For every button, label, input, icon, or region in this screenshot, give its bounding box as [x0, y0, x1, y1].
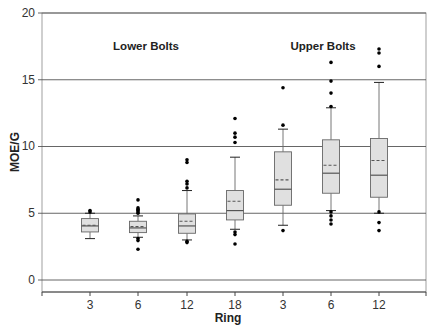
iqr-box [371, 138, 388, 197]
outlier-point [329, 61, 333, 65]
outlier-point [377, 65, 381, 69]
x-tick-label: 12 [180, 298, 194, 312]
y-axis-title: MOE/G [8, 132, 22, 172]
outlier-point [329, 105, 333, 109]
box-upper-bolts-ring-3 [275, 86, 292, 232]
annotation-upper-bolts: Upper Bolts [290, 40, 355, 52]
box-series [82, 47, 388, 251]
outlier-point [377, 221, 381, 225]
outlier-point [329, 91, 333, 95]
outlier-point [377, 210, 381, 214]
outlier-point [233, 233, 237, 237]
outlier-point [281, 229, 285, 233]
x-tick-label: 3 [280, 298, 287, 312]
iqr-box [323, 140, 340, 193]
x-axis-title: Ring [215, 311, 242, 325]
outlier-point [377, 51, 381, 55]
outlier-point [136, 198, 140, 202]
x-tick-label: 3 [87, 298, 94, 312]
outlier-point [329, 222, 333, 226]
outlier-point [329, 210, 333, 214]
outlier-point [329, 218, 333, 222]
y-tick-label-15: 15 [22, 73, 36, 87]
outlier-point [281, 86, 285, 90]
y-tick-label-0: 0 [28, 273, 35, 287]
box-lower-bolts-ring-6 [130, 198, 147, 251]
outlier-point [329, 214, 333, 218]
outlier-point [185, 241, 189, 245]
outlier-point [233, 141, 237, 145]
y-tick-label-20: 20 [22, 6, 36, 20]
x-tick-label: 12 [372, 298, 386, 312]
iqr-box [227, 191, 244, 220]
box-plot-chart: 0 5 10 15 20 MOE/G Ring Lower Bolts Uppe… [0, 0, 436, 335]
gridlines [38, 13, 426, 280]
outlier-point [233, 131, 237, 135]
plot-frame [42, 13, 426, 292]
iqr-box [275, 152, 292, 205]
iqr-box [179, 214, 196, 233]
x-tick-label: 18 [228, 298, 242, 312]
outlier-point [377, 229, 381, 233]
y-tick-label-10: 10 [22, 139, 36, 153]
outlier-point [136, 239, 140, 243]
y-axis-ticks: 0 5 10 15 20 [22, 6, 36, 287]
outlier-point [185, 179, 189, 183]
x-axis: 3612183612 [42, 292, 426, 312]
box-upper-bolts-ring-12 [371, 47, 388, 232]
outlier-point [88, 209, 92, 213]
box-lower-bolts-ring-12 [179, 158, 196, 244]
outlier-point [233, 135, 237, 139]
outlier-point [136, 206, 140, 210]
outlier-point [281, 123, 285, 127]
x-tick-label: 6 [328, 298, 335, 312]
outlier-point [233, 242, 237, 246]
outlier-point [136, 247, 140, 251]
outlier-point [329, 79, 333, 83]
box-lower-bolts-ring-18 [227, 117, 244, 246]
annotation-lower-bolts: Lower Bolts [113, 40, 179, 52]
outlier-point [377, 47, 381, 51]
outlier-point [185, 158, 189, 162]
x-tick-label: 6 [135, 298, 142, 312]
outlier-point [233, 117, 237, 121]
y-tick-label-5: 5 [28, 206, 35, 220]
box-upper-bolts-ring-6 [323, 61, 340, 226]
outlier-point [185, 186, 189, 190]
